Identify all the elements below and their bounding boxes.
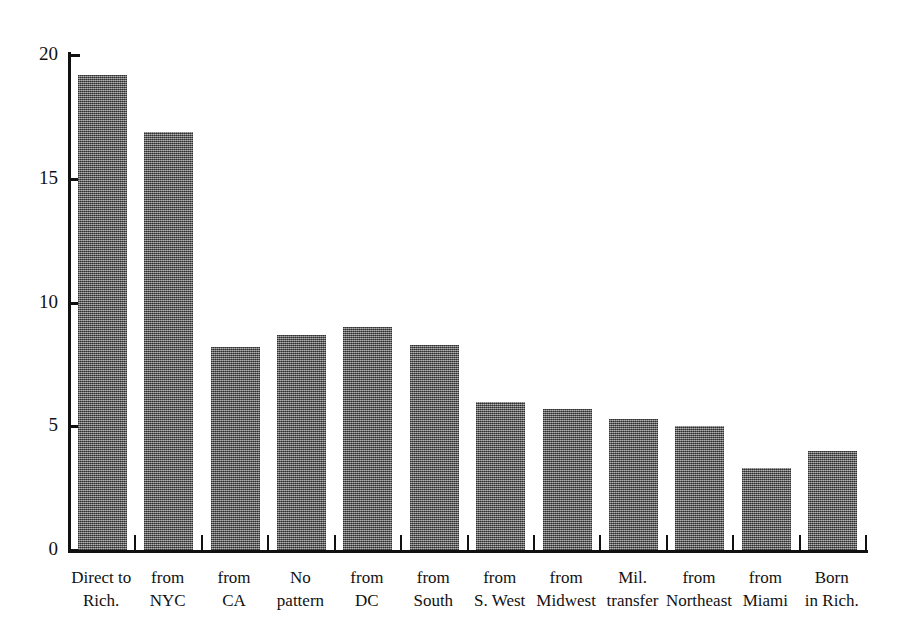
bar: [609, 419, 658, 550]
y-axis-tick-label: 5: [0, 414, 58, 436]
x-axis-category-label: No pattern: [267, 566, 333, 612]
bar-chart-figure: 05101520 Direct to Rich.from NYCfrom CAN…: [0, 0, 910, 632]
bar: [211, 347, 260, 550]
x-axis-category-label: from CA: [201, 566, 267, 612]
x-axis-category-label: from Midwest: [533, 566, 599, 612]
y-axis-tick-label: 0: [0, 538, 58, 560]
bar: [343, 327, 392, 550]
y-axis-tick-label: 10: [0, 291, 58, 313]
x-axis-category-label: Direct to Rich.: [68, 566, 134, 612]
x-axis-category-label: from South: [400, 566, 466, 612]
bar: [476, 402, 525, 551]
bar: [543, 409, 592, 550]
y-axis-tick-label: 20: [0, 43, 58, 65]
bar: [78, 75, 127, 550]
bar: [144, 132, 193, 550]
bar: [808, 451, 857, 550]
x-axis-tick: [865, 535, 867, 551]
x-axis-category-label: from S. West: [467, 566, 533, 612]
y-axis-tick-label: 15: [0, 167, 58, 189]
x-axis-category-label: from NYC: [134, 566, 200, 612]
x-axis-category-label: from Northeast: [666, 566, 732, 612]
x-axis-category-label: Born in Rich.: [799, 566, 865, 612]
x-axis-category-label: from Miami: [732, 566, 798, 612]
x-axis-category-label: from DC: [334, 566, 400, 612]
bar: [742, 468, 791, 550]
bar: [277, 335, 326, 550]
bar: [410, 345, 459, 550]
bar: [675, 426, 724, 550]
x-axis-category-label: Mil. transfer: [599, 566, 665, 612]
bars-container: [68, 55, 865, 550]
